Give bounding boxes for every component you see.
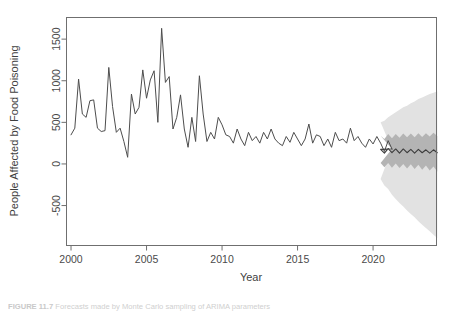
- y-axis-tick-label: 500: [50, 113, 62, 131]
- x-axis-tick-label: 2005: [135, 253, 159, 265]
- y-axis-tick-label: 0: [50, 161, 62, 167]
- x-axis: 20002005201020152020: [59, 246, 385, 265]
- x-axis-tick-label: 2000: [59, 253, 83, 265]
- y-axis-tick-label: 1500: [50, 27, 62, 51]
- y-axis-title: People Affected by Food Poisoning: [8, 45, 20, 216]
- figure-container: -500050010001500 20002005201020152020 Ye…: [0, 0, 453, 313]
- observed-series-line: [71, 28, 392, 157]
- figure-caption-label: FIGURE 11.7: [8, 302, 53, 311]
- plot-frame-border: [67, 18, 437, 246]
- forecast-chart: -500050010001500 20002005201020152020 Ye…: [0, 0, 453, 313]
- x-axis-title: Year: [240, 271, 263, 283]
- x-axis-tick-label: 2010: [210, 253, 234, 265]
- x-axis-tick-label: 2015: [286, 253, 310, 265]
- y-axis-tick-label: -500: [50, 195, 62, 216]
- y-axis-tick-label: 1000: [50, 69, 62, 93]
- x-axis-tick-label: 2020: [361, 253, 385, 265]
- y-axis: -500050010001500: [50, 27, 66, 216]
- figure-caption-text: Forecasts made by Monte Carlo sampling o…: [55, 302, 270, 311]
- figure-caption: FIGURE 11.7 Forecasts made by Monte Carl…: [8, 302, 448, 311]
